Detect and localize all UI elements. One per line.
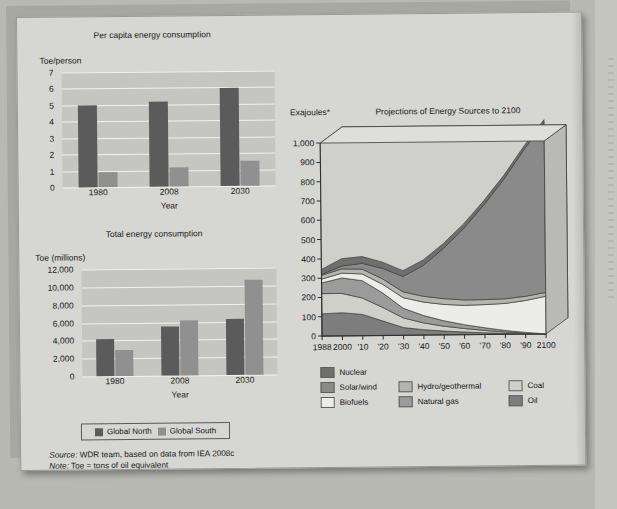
- note-text: WDR team, based on data from IEA 2008c: [77, 449, 234, 460]
- area-chart-right-slab: [544, 125, 568, 334]
- chart2-plot-area: [81, 268, 277, 377]
- y-tick-label: 300: [277, 273, 315, 283]
- figure-page: Per capita energy consumption Toe/person…: [16, 12, 586, 471]
- legend-swatch: [320, 367, 334, 378]
- legend-item-nuclear: Nuclear: [320, 366, 398, 378]
- legend-label: Global South: [170, 426, 216, 435]
- x-tick-label: '30: [398, 341, 409, 351]
- y-tick-label: 0: [70, 371, 75, 381]
- x-tick-label: 2000: [333, 342, 352, 352]
- x-tick-label: 2008: [170, 375, 189, 385]
- legend-item-global-north: Global North: [95, 427, 152, 437]
- y-tick-label: 4: [49, 117, 54, 127]
- legend-spacer: [398, 371, 508, 372]
- y-tick-label: 500: [277, 235, 315, 245]
- y-tick-label: 800: [277, 177, 315, 187]
- chart3-plot-area: [276, 119, 578, 352]
- chart2-x-axis-label: Year: [83, 389, 278, 401]
- y-tick-label: 12,000: [47, 264, 73, 274]
- x-tick-label: 2030: [235, 375, 254, 385]
- bar-global-south-1980: [98, 172, 117, 187]
- bar-global-south-2008: [180, 320, 198, 375]
- y-tick-label: 0: [50, 183, 55, 193]
- y-tick-label: 10,000: [48, 282, 74, 292]
- y-tick-label: 200: [278, 293, 316, 303]
- note-line: Note: Toe = tons of oil equivalent: [49, 459, 234, 472]
- note-emphasis: Note:: [49, 462, 69, 471]
- bar-global-north-2008: [149, 102, 169, 187]
- y-tick-label: 5: [49, 100, 54, 110]
- note-emphasis: Source:: [49, 450, 77, 459]
- chart2-title: Total energy consumption: [19, 227, 289, 240]
- note-line: Source: WDR team, based on data from IEA…: [49, 448, 234, 461]
- area-chart-legend: NuclearSolar/windHydro/geothermalCoalBio…: [320, 363, 590, 411]
- legend-item-global-south: Global South: [158, 426, 216, 436]
- chart1-plot-area: [62, 71, 276, 188]
- chart-total-energy-consumption: Total energy consumption Toe (millions) …: [19, 223, 291, 416]
- y-tick-label: 700: [277, 196, 315, 206]
- chart3-title: Projections of Energy Sources to 2100: [348, 105, 548, 117]
- x-tick-label: 2030: [231, 186, 250, 196]
- x-tick-label: '20: [378, 341, 389, 351]
- legend-label: Hydro/geothermal: [418, 382, 482, 392]
- legend-swatch: [158, 427, 166, 435]
- y-tick-label: 400: [277, 254, 315, 264]
- chart1-title: Per capita energy consumption: [17, 28, 287, 41]
- y-tick-label: 6,000: [53, 318, 74, 328]
- x-tick-label: 1980: [105, 376, 124, 386]
- y-tick-label: 0: [278, 331, 316, 341]
- legend-label: Solar/wind: [340, 383, 377, 392]
- x-tick-label: '60: [459, 341, 470, 351]
- gridline: [62, 71, 275, 74]
- chart1-x-axis-label: Year: [63, 200, 276, 212]
- legend-swatch: [321, 382, 335, 393]
- chart2-y-ticks: 02,0004,0006,0008,00010,00012,000: [31, 269, 78, 376]
- bar-global-south-2030: [240, 160, 259, 186]
- chart1-y-axis-label: Toe/person: [39, 55, 81, 65]
- chart-projections-of-energy-sources: Exajoules* Projections of Energy Sources…: [276, 101, 578, 349]
- legend-swatch: [321, 397, 335, 408]
- chart2-y-axis-label: Toe (millions): [35, 252, 85, 262]
- bar-global-north-1980: [97, 340, 115, 377]
- x-tick-label: '70: [479, 340, 490, 350]
- x-tick-label: 2008: [160, 186, 179, 196]
- y-tick-label: 8,000: [52, 300, 73, 310]
- x-tick-label: '90: [520, 340, 531, 350]
- chart-per-capita-energy-consumption: Per capita energy consumption Toe/person…: [17, 15, 289, 218]
- chart3-y-axis-label: Exajoules*: [290, 107, 330, 117]
- page-right-margin: [595, 0, 617, 509]
- x-tick-label: '80: [500, 340, 511, 350]
- gridline: [62, 87, 275, 90]
- legend-item-coal: Coal: [509, 380, 579, 392]
- legend-label: Global North: [107, 427, 152, 436]
- legend-item-hydro-geothermal: Hydro/geothermal: [399, 380, 509, 392]
- bar-global-south-1980: [115, 350, 133, 376]
- bar-global-north-2030: [220, 88, 240, 186]
- legend-swatch: [509, 380, 523, 391]
- legend-swatch: [399, 381, 413, 392]
- y-tick-label: 900: [276, 157, 314, 167]
- y-tick-label: 4,000: [53, 336, 74, 346]
- legend-label: Oil: [528, 396, 538, 405]
- legend-item-solar-wind: Solar/wind: [321, 381, 399, 393]
- x-tick-label: 1988: [313, 342, 332, 352]
- y-tick-label: 2,000: [53, 354, 74, 364]
- legend-spacer: [508, 370, 578, 371]
- bar-global-north-2008: [161, 326, 179, 375]
- bar-global-north-1980: [78, 105, 98, 187]
- bar-chart-legend: Global NorthGlobal South: [81, 422, 230, 440]
- legend-label: Natural gas: [418, 397, 459, 406]
- x-tick-label: 2100: [537, 340, 556, 350]
- y-tick-label: 2: [50, 150, 55, 160]
- x-tick-label: '50: [439, 341, 450, 351]
- bar-global-south-2030: [245, 280, 263, 375]
- legend-label: Coal: [528, 381, 545, 390]
- figure-notes: Source: WDR team, based on data from IEA…: [49, 448, 234, 472]
- margin-text-marks: [608, 58, 614, 298]
- y-tick-label: 1,000: [276, 138, 314, 148]
- x-tick-label: '40: [418, 341, 429, 351]
- y-tick-label: 1: [50, 166, 55, 176]
- note-text: Toe = tons of oil equivalent: [69, 461, 168, 471]
- legend-item-biofuels: Biofuels: [321, 396, 399, 408]
- x-tick-label: '10: [357, 342, 368, 352]
